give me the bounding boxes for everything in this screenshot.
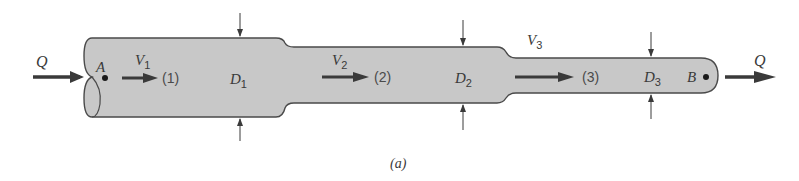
inlet-flow-label: Q <box>36 53 48 70</box>
inlet-flow-arrow <box>33 71 84 83</box>
station-label-1: (1) <box>162 70 179 86</box>
station-label-3: (3) <box>582 69 599 85</box>
outlet-flow-arrow <box>725 71 776 83</box>
point-a-dot <box>102 75 108 81</box>
point-b-dot <box>703 74 709 80</box>
point-b-label: B <box>687 69 696 85</box>
station-label-2: (2) <box>374 69 391 85</box>
point-a-label: A <box>95 59 106 75</box>
outlet-flow-label: Q <box>754 52 766 69</box>
pipe-flow-diagram: Q A V1 (1) D1 V2 (2) D2 V3 <box>0 0 799 181</box>
velocity-label-3: V3 <box>527 32 542 51</box>
figure-caption: (a) <box>390 156 407 172</box>
